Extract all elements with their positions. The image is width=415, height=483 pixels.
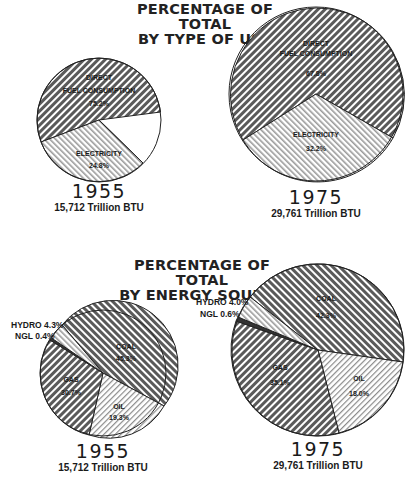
label-oil-1955-pct: 19.3% bbox=[109, 414, 130, 421]
pie-source-1975: COAL 42.3% GAS 35.1% OIL 18.0% bbox=[231, 264, 404, 436]
caption-year-use-1955: 1955 bbox=[49, 180, 149, 202]
label-oil-1975: OIL bbox=[353, 375, 365, 382]
pie-use-1955: DIRECT FUEL CONSUMPTION 75.2% ELECTRICIT… bbox=[37, 58, 161, 182]
caption-year-use-1975: 1975 bbox=[266, 186, 366, 208]
caption-total-use-1955: 15,712 Trillion BTU bbox=[39, 202, 159, 213]
label-electricity-1955: ELECTRICITY bbox=[76, 150, 122, 157]
label-coal-1955: COAL bbox=[116, 343, 137, 350]
label-electricity-1955-pct: 24.8% bbox=[89, 162, 110, 169]
label-coal-1975: COAL bbox=[316, 295, 337, 302]
label-direct-1975-l2: FUEL CONSUMPTION bbox=[280, 50, 353, 57]
caption-total-use-1975: 29,761 Trillion BTU bbox=[256, 208, 376, 219]
label-direct-1955-pct: 75.2% bbox=[89, 100, 110, 107]
label-ngl-1975: NGL 0.6% bbox=[200, 309, 240, 319]
pie-charts-canvas: DIRECT FUEL CONSUMPTION 75.2% ELECTRICIT… bbox=[0, 0, 415, 483]
label-electricity-1975-pct: 32.2% bbox=[306, 145, 327, 152]
label-electricity-1975: ELECTRICITY bbox=[293, 131, 339, 138]
label-ngl-1955: NGL 0.4% bbox=[15, 331, 55, 341]
pie-use-1975: DIRECT FUEL CONSUMPTION 67.8% ELECTRICIT… bbox=[229, 7, 404, 182]
label-direct-1975-pct: 67.8% bbox=[306, 70, 327, 77]
label-gas-1975: GAS bbox=[272, 364, 288, 371]
label-oil-1955: OIL bbox=[113, 403, 125, 410]
label-coal-1975-pct: 42.3% bbox=[316, 312, 337, 319]
label-hydro-1955: HYDRO 4.3% bbox=[11, 320, 63, 330]
caption-total-src-1975: 29,761 Trillion BTU bbox=[258, 460, 378, 471]
label-gas-1955: GAS bbox=[63, 376, 79, 383]
label-direct-1955-l2: FUEL CONSUMPTION bbox=[63, 87, 136, 94]
label-oil-1975-pct: 18.0% bbox=[349, 390, 370, 397]
caption-year-src-1955: 1955 bbox=[53, 440, 153, 462]
label-gas-1975-pct: 35.1% bbox=[270, 379, 291, 386]
label-gas-1955-pct: 30.7% bbox=[61, 389, 82, 396]
label-direct-1975-l1: DIRECT bbox=[303, 40, 330, 47]
caption-year-src-1975: 1975 bbox=[268, 438, 368, 460]
label-hydro-1975: HYDRO 4.0% bbox=[196, 297, 248, 307]
label-coal-1955-pct: 45.3% bbox=[116, 355, 137, 362]
label-direct-1955-l1: DIRECT bbox=[86, 74, 113, 81]
caption-total-src-1955: 15,712 Trillion BTU bbox=[43, 462, 163, 473]
